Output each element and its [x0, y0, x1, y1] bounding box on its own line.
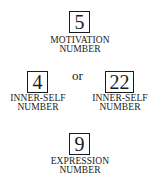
motivation-label-line2: NUMBER	[30, 45, 130, 54]
or-connector: or	[72, 69, 83, 82]
expression-number-value: 9	[75, 134, 85, 154]
expression-number-label: EXPRESSION NUMBER	[30, 157, 130, 175]
motivation-number-value: 5	[75, 12, 85, 32]
expression-number-box: 9	[69, 133, 90, 155]
inner-self-number-box-right: 22	[105, 71, 134, 93]
inner-self-number-value-right: 22	[110, 72, 130, 92]
expression-label-line2: NUMBER	[30, 166, 130, 175]
inner-self-number-label-right: INNER-SELF NUMBER	[70, 94, 161, 112]
motivation-number-box: 5	[69, 11, 90, 33]
inner-self-number-box-left: 4	[27, 71, 48, 93]
inner-self-number-value-left: 4	[33, 72, 43, 92]
inner-self-right-label-line2: NUMBER	[70, 103, 161, 112]
motivation-number-label: MOTIVATION NUMBER	[30, 36, 130, 54]
